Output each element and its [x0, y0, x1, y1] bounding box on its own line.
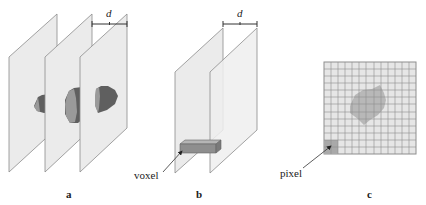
voxel-label: voxel	[134, 170, 158, 181]
panel-label-b: b	[196, 189, 202, 200]
pixel-label: pixel	[280, 168, 302, 179]
panel-label-a: a	[66, 189, 72, 200]
panel-a	[9, 14, 127, 172]
panel-label-c: c	[367, 189, 372, 200]
dimension-bracket-b	[223, 21, 257, 27]
figure-canvas	[0, 0, 426, 205]
panel-c	[303, 62, 416, 168]
panel-b	[163, 21, 257, 173]
voxel-shape	[180, 140, 221, 153]
dimension-label-b: d	[237, 8, 243, 19]
dimension-label-a: d	[106, 8, 112, 19]
pixel-callout-arrow	[303, 146, 331, 168]
